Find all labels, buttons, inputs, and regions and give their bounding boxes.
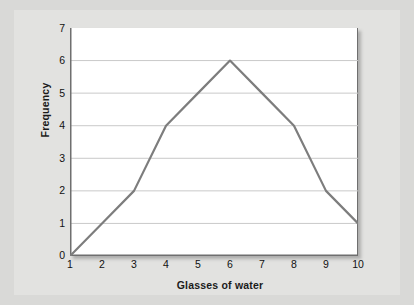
x-tick-label-8: 8: [282, 258, 306, 270]
y-tick-label-2: 2: [43, 184, 65, 196]
x-tick-label-3: 3: [122, 258, 146, 270]
y-tick-label-1: 1: [43, 217, 65, 229]
y-tick-label-3: 3: [43, 152, 65, 164]
y-tick-label-7: 7: [43, 22, 65, 34]
x-tick-label-5: 5: [186, 258, 210, 270]
x-tick-label-9: 9: [314, 258, 338, 270]
frequency-polygon-chart: Frequency 7 6 5 4 3 2 1 0 1 2 3 4 5 6: [0, 0, 414, 305]
x-tick-label-1: 1: [58, 258, 82, 270]
x-tick-label-4: 4: [154, 258, 178, 270]
y-axis-title: Frequency: [39, 62, 51, 158]
x-tick-label-10: 10: [346, 258, 370, 270]
y-tick-label-4: 4: [43, 119, 65, 131]
x-tick-label-6: 6: [218, 258, 242, 270]
x-tick-label-7: 7: [250, 258, 274, 270]
y-tick-label-5: 5: [43, 87, 65, 99]
plot-area: [70, 28, 358, 256]
x-tick-label-2: 2: [90, 258, 114, 270]
y-tick-label-6: 6: [43, 54, 65, 66]
x-axis-title: Glasses of water: [70, 279, 370, 291]
chart-page: Frequency 7 6 5 4 3 2 1 0 1 2 3 4 5 6: [0, 0, 414, 305]
